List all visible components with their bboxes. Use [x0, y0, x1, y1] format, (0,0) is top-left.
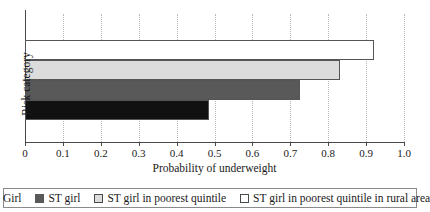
x-axis-tick-label: 0.2 — [81, 147, 121, 159]
x-axis-tick-label: 0.3 — [119, 147, 159, 159]
x-axis-tick — [328, 142, 329, 146]
x-axis-tick — [215, 142, 216, 146]
x-axis-tick — [139, 142, 140, 146]
gridline — [404, 14, 405, 142]
x-axis-tick — [366, 142, 367, 146]
y-axis-title: Risk category — [20, 24, 32, 144]
y-axis-tick — [25, 10, 26, 14]
legend-item-label: ST girl — [48, 192, 80, 204]
x-axis-tick — [252, 142, 253, 146]
x-axis-title: Probability of underweight — [25, 162, 404, 174]
legend-item: ST girl in poorest quintile — [94, 192, 226, 204]
legend-swatch-icon — [240, 194, 249, 203]
bar — [25, 80, 300, 100]
y-axis-title-wrap: Risk category — [8, 0, 22, 156]
bar — [25, 60, 340, 80]
x-axis-tick-label: 0.8 — [308, 147, 348, 159]
bar — [25, 100, 209, 120]
legend-item: ST girl in poorest quintile in rural are… — [240, 192, 430, 204]
bar — [25, 40, 374, 60]
x-axis-tick-label: 0.9 — [346, 147, 386, 159]
x-axis-tick-label: 0.6 — [232, 147, 272, 159]
x-axis-tick — [101, 142, 102, 146]
x-axis-tick-label: 0.7 — [270, 147, 310, 159]
x-axis-tick-label: 0.1 — [43, 147, 83, 159]
x-axis-tick-label: 0.5 — [195, 147, 235, 159]
legend-item-label: Girl — [3, 192, 22, 204]
legend-item-label: ST girl in poorest quintile in rural are… — [253, 192, 430, 204]
x-axis-tick — [177, 142, 178, 146]
x-axis-tick — [63, 142, 64, 146]
legend-item: ST girl — [35, 192, 80, 204]
x-axis-tick — [404, 142, 405, 146]
legend-swatch-icon — [35, 194, 44, 203]
x-axis-tick-label: 1.0 — [384, 147, 424, 159]
legend-item: Girl — [0, 192, 21, 204]
legend-swatch-icon — [94, 194, 103, 203]
gridline — [366, 14, 367, 142]
x-axis-tick-label: 0.4 — [157, 147, 197, 159]
x-axis-tick — [290, 142, 291, 146]
legend-item-label: ST girl in poorest quintile — [107, 192, 226, 204]
chart-legend: GirlST girlST girl in poorest quintileST… — [3, 188, 417, 208]
